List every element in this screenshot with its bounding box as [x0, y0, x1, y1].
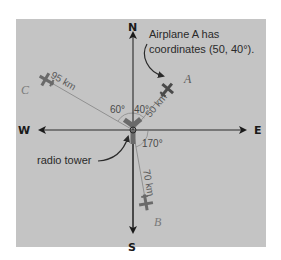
airplane-a-letter: A [183, 72, 192, 86]
radio-tower-label: radio tower [37, 154, 92, 166]
west-label: W [18, 124, 30, 137]
angle-label-b: 170° [142, 138, 163, 149]
airplane-a-callout-line1: Airplane A has [149, 28, 220, 40]
angle-label-c: 60° [110, 104, 125, 115]
east-label: E [254, 124, 262, 137]
airplane-c-letter: C [21, 83, 30, 97]
compass-diagram: N S E W 60° 40° 170° 50 km 70 km 95 km A… [0, 0, 281, 260]
airplane-a-callout-line2: coordinates (50, 40°). [149, 43, 254, 55]
north-label: N [128, 21, 137, 34]
south-label: S [128, 241, 136, 254]
airplane-b-letter: B [154, 215, 162, 229]
